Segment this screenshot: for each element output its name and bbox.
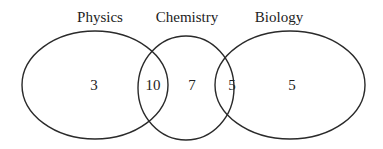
- chemistry-biology-value: 5: [228, 77, 236, 93]
- physics-only-value: 3: [90, 77, 98, 93]
- biology-only-value: 5: [288, 77, 296, 93]
- biology-label: Biology: [255, 9, 304, 25]
- chemistry-label: Chemistry: [156, 9, 219, 25]
- chemistry-only-value: 7: [188, 77, 196, 93]
- physics-label: Physics: [77, 9, 123, 25]
- venn-diagram: Physics Chemistry Biology 3 10 7 5 5: [0, 0, 383, 149]
- physics-chemistry-value: 10: [146, 77, 161, 93]
